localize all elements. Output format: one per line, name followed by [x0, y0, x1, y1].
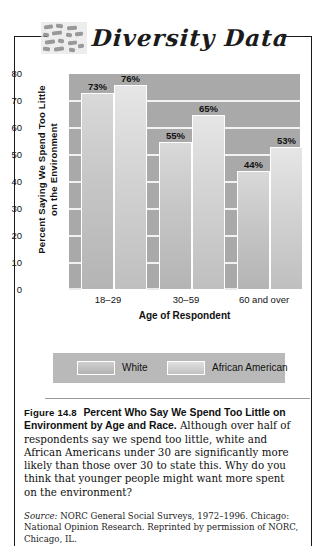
y-tick-10: 10	[0, 263, 22, 273]
bar-value-18-29-african-american: 76%	[114, 73, 147, 84]
bar-value-60-over-african-american: 53%	[270, 135, 303, 146]
bar-18-29-white	[81, 93, 114, 290]
bar-60-over-white	[237, 171, 270, 290]
header: Diversity Data	[0, 16, 327, 56]
y-tick-20: 20	[0, 236, 22, 246]
y-tick-40: 40	[0, 182, 22, 192]
bar-60-over-african-american	[270, 147, 303, 290]
legend-label-white: White	[122, 361, 148, 375]
bar-30-59-african-american	[192, 115, 225, 290]
legend-swatch-african-american	[167, 361, 205, 375]
x-tick-60-and-over: 60 and over	[225, 294, 303, 305]
legend-item-african-american: African American	[167, 361, 285, 375]
figure-page: Diversity Data Percent Saying We Spend T…	[0, 0, 327, 546]
bar-group-container: 73% 76% 55% 65% 44% 53%	[69, 74, 300, 290]
y-tick-50: 50	[0, 155, 22, 165]
y-axis-label-line1: Percent Saying We Spend Too Little	[36, 85, 47, 254]
y-tick-70: 70	[0, 101, 22, 111]
source-label: Source:	[24, 511, 58, 521]
y-tick-0: 0	[0, 290, 22, 300]
bar-value-30-59-white: 55%	[159, 130, 192, 141]
bar-value-30-59-african-american: 65%	[192, 103, 225, 114]
figure-caption: Figure 14.8 Percent Who Say We Spend Too…	[24, 406, 294, 499]
caption-divider	[45, 398, 310, 399]
bar-value-18-29-white: 73%	[81, 81, 114, 92]
y-tick-80: 80	[0, 74, 22, 84]
chart: Percent Saying We Spend Too Little on th…	[15, 62, 311, 396]
legend-item-white: White	[77, 361, 177, 375]
legend-label-african-american: African American	[212, 361, 288, 375]
y-tick-30: 30	[0, 209, 22, 219]
plot-area: 73% 76% 55% 65% 44% 53%	[69, 74, 300, 290]
bar-18-29-african-american	[114, 85, 147, 290]
x-tick-18-29: 18–29	[69, 294, 147, 305]
bar-30-59-white	[159, 142, 192, 290]
legend: White African American	[53, 353, 285, 383]
x-axis-label: Age of Respondent	[69, 310, 300, 321]
y-tick-60: 60	[0, 128, 22, 138]
legend-swatch-white	[77, 361, 115, 375]
figure-source: Source: NORC General Social Surveys, 197…	[24, 511, 300, 545]
y-axis-label: Percent Saying We Spend Too Little on th…	[36, 70, 59, 270]
x-tick-30-59: 30–59	[147, 294, 225, 305]
figure-number: Figure 14.8	[24, 407, 77, 418]
page-rule-right	[311, 36, 312, 546]
source-text: NORC General Social Surveys, 1972–1996. …	[24, 511, 298, 544]
bar-value-60-over-white: 44%	[237, 159, 270, 170]
page-title: Diversity Data	[91, 22, 283, 54]
mosaic-tiles-icon	[41, 22, 87, 54]
y-axis-label-line2: on the Environment	[47, 123, 58, 216]
